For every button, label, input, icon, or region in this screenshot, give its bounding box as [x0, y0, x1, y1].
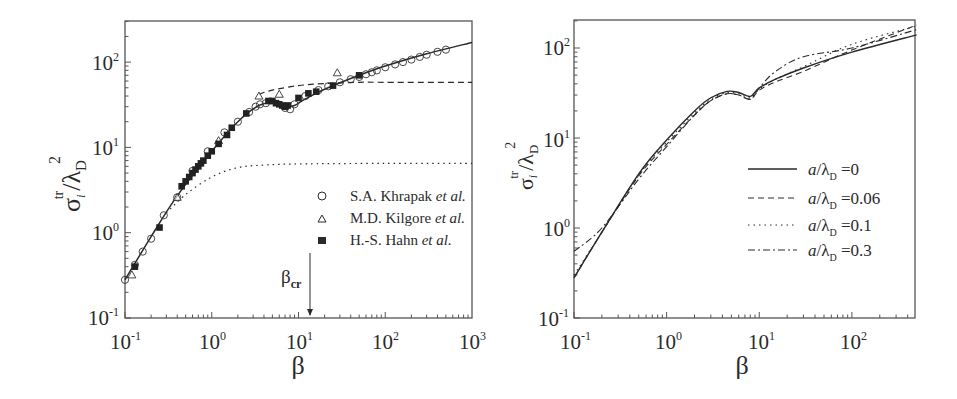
legend-entry-03: a/λD =0.3 [808, 241, 872, 263]
left-legend: S.A. Khrapak et al. M.D. Kilgore et al. … [318, 188, 466, 248]
right-legend: a/λD =0 a/λD =0.06 a/λD =0.1 a/λD =0.3 [748, 160, 880, 263]
legend-entry-0: a/λD =0 [808, 160, 859, 182]
x-tick-label: 103 [459, 329, 486, 354]
arrow-head-icon [307, 309, 313, 316]
y-tick-label: 10-1 [88, 305, 119, 330]
svg-text:σitr/λD2: σitr/λD2 [503, 142, 541, 190]
filled-square-marker-icon [215, 141, 222, 148]
right-plot-frame [574, 20, 915, 318]
beta-cr-annotation: βcr [281, 253, 313, 316]
open-circle-marker-icon [399, 59, 406, 66]
filled-square-marker-icon [356, 72, 363, 79]
x-tick-label: 102 [840, 329, 867, 354]
legend-entry-khrapak: S.A. Khrapak et al. [350, 188, 466, 204]
x-tick-label: 10-1 [110, 329, 141, 354]
filled-square-marker-icon [284, 102, 291, 109]
y-tick-label: 102 [92, 50, 119, 75]
filled-square-marker-icon [224, 132, 231, 139]
open-triangle-marker-icon [333, 69, 341, 76]
svg-text:σitr/λD2: σitr/λD2 [46, 156, 89, 212]
filled-square-marker-icon [228, 124, 235, 131]
legend-entry-hahn: H.-S. Hahn et al. [350, 232, 452, 248]
left-axis-ticks [125, 21, 468, 318]
filled-square-marker-icon [305, 90, 312, 97]
left-y-tick-labels: 10-1 100 101 102 [88, 50, 119, 330]
x-tick-label: 101 [748, 329, 775, 354]
right-x-tick-labels: 10-1 100 101 102 [560, 329, 867, 354]
open-triangle-marker-icon [173, 193, 181, 200]
open-triangle-marker-icon [318, 215, 326, 222]
filled-square-marker-icon [318, 237, 326, 244]
right-y-axis-title: σitr/λD2 [503, 142, 541, 190]
filled-square-marker-icon [330, 82, 337, 89]
right-curves [574, 25, 917, 278]
dotted-curve [574, 26, 917, 275]
dashed-curve [574, 25, 917, 278]
filled-square-marker-icon [313, 88, 320, 95]
left-x-axis-title: β [291, 351, 304, 380]
legend-entry-kilgore: M.D. Kilgore et al. [350, 210, 465, 226]
right-chart: 10-1 100 101 102 10-1 100 101 102 β σitr… [503, 20, 917, 380]
left-chart: 10-1 100 101 102 10-1 100 101 102 103 β … [46, 21, 486, 380]
y-tick-label: 100 [92, 220, 119, 245]
filled-square-marker-icon [132, 263, 139, 270]
y-tick-label: 10-1 [538, 306, 569, 331]
dashed-curve [259, 82, 472, 94]
y-tick-label: 100 [543, 216, 570, 241]
x-tick-label: 10-1 [560, 329, 591, 354]
y-tick-label: 101 [92, 135, 119, 160]
y-tick-label: 102 [543, 35, 570, 60]
filled-square-marker-icon [156, 224, 163, 231]
left-plot-frame [125, 21, 472, 318]
open-circle-marker-icon [318, 192, 326, 200]
right-y-tick-labels: 10-1 100 101 102 [538, 35, 570, 331]
legend-entry-01: a/λD =0.1 [808, 216, 872, 238]
figure: 10-1 100 101 102 10-1 100 101 102 103 β … [0, 0, 957, 399]
filled-square-marker-icon [243, 110, 250, 117]
left-y-axis-title: σitr/λD2 [46, 156, 89, 212]
open-triangle-marker-icon [275, 90, 283, 97]
filled-square-marker-icon [295, 95, 302, 102]
y-tick-label: 101 [543, 127, 570, 152]
right-x-axis-title: β [735, 351, 748, 380]
x-tick-label: 102 [372, 329, 399, 354]
x-tick-label: 100 [199, 329, 226, 354]
x-tick-label: 100 [655, 329, 682, 354]
svg-text:βcr: βcr [281, 266, 302, 291]
filled-square-marker-icon [208, 148, 215, 155]
legend-entry-006: a/λD =0.06 [808, 189, 880, 211]
